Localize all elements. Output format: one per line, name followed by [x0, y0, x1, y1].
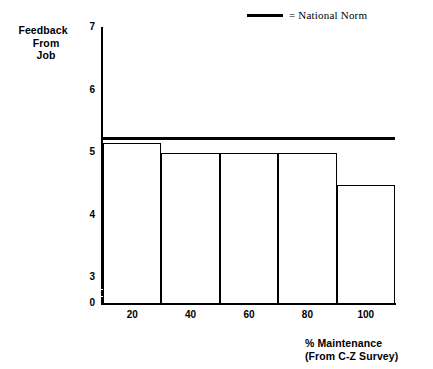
chart-figure: = National Norm Feedback From Job 765430… [0, 0, 433, 369]
y-tick-label-3: 3 [77, 272, 95, 282]
bar-40 [161, 153, 219, 303]
x-tick-label-100: 100 [346, 310, 386, 320]
national-norm-reference-line [101, 137, 395, 140]
y-tick-label-6: 6 [77, 85, 95, 95]
bar-80 [278, 153, 336, 303]
x-axis-title: % Maintenance (From C-Z Survey) [305, 337, 398, 362]
x-axis-line [101, 303, 396, 305]
x-axis-title-line-2: (From C-Z Survey) [305, 350, 398, 363]
bar-100 [337, 185, 395, 303]
x-axis-title-line-1: % Maintenance [305, 337, 398, 350]
x-tick-label-20: 20 [112, 310, 152, 320]
plot-area: 765430 20406080100 [0, 0, 433, 369]
x-tick-label-40: 40 [171, 310, 211, 320]
y-tick-label-4: 4 [77, 210, 95, 220]
y-tick-label-0: 0 [77, 298, 95, 308]
y-tick-label-7: 7 [77, 22, 95, 32]
x-tick-label-80: 80 [287, 310, 327, 320]
bar-60 [220, 153, 278, 303]
x-tick-label-60: 60 [229, 310, 269, 320]
bar-20 [103, 143, 161, 303]
y-tick-label-5: 5 [77, 147, 95, 157]
